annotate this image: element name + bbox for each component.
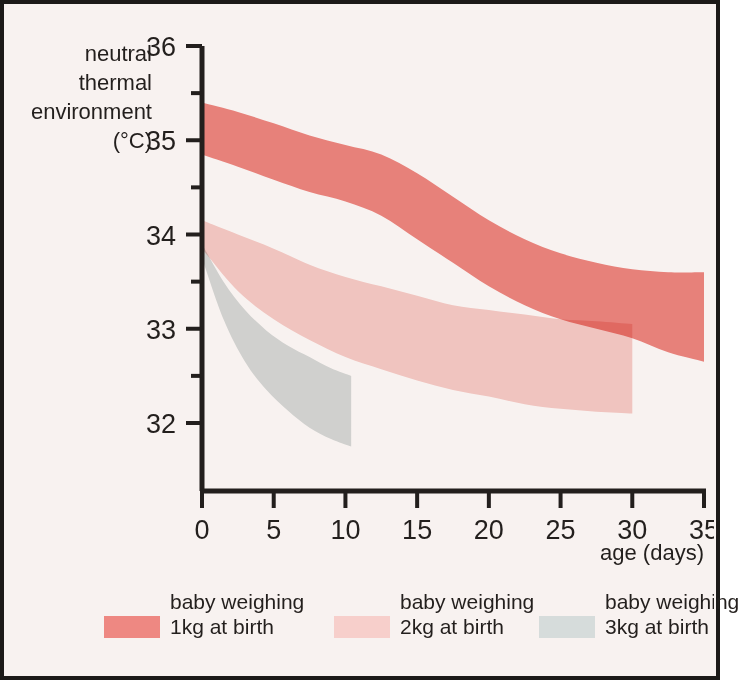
legend-label-3kg-line1: baby weighing <box>605 590 739 615</box>
x-tick-label: 20 <box>474 515 504 545</box>
data-bands <box>202 103 704 447</box>
legend-label-3kg: baby weighing 3kg at birth <box>605 590 739 640</box>
y-tick-label: 33 <box>146 315 176 345</box>
legend-label-2kg-line1: baby weighing <box>400 590 534 615</box>
legend-label-2kg-line2: 2kg at birth <box>400 615 534 640</box>
legend-label-3kg-line2: 3kg at birth <box>605 615 739 640</box>
x-tick-label: 25 <box>546 515 576 545</box>
legend-label-1kg-line2: 1kg at birth <box>170 615 304 640</box>
x-axis-label: age (days) <box>600 540 704 565</box>
x-tick-label: 0 <box>194 515 209 545</box>
x-tick-label: 5 <box>266 515 281 545</box>
x-tick-label: 10 <box>330 515 360 545</box>
y-axis-label-line-2: thermal <box>79 70 152 95</box>
legend-label-1kg: baby weighing 1kg at birth <box>170 590 304 640</box>
y-tick-label: 34 <box>146 221 176 251</box>
legend-label-2kg: baby weighing 2kg at birth <box>400 590 534 640</box>
legend-swatch-2kg <box>334 616 390 638</box>
y-tick-label: 32 <box>146 409 176 439</box>
y-tick-label: 35 <box>146 126 176 156</box>
legend-swatch-1kg <box>104 616 160 638</box>
legend-swatch-3kg <box>539 616 595 638</box>
legend-label-1kg-line1: baby weighing <box>170 590 304 615</box>
y-tick-label: 36 <box>146 32 176 62</box>
y-axis-label-line-1: neutral <box>85 41 152 66</box>
x-tick-label: 15 <box>402 515 432 545</box>
chart-canvas: neutral thermal environment (°C) 3233343… <box>4 4 724 680</box>
y-axis-label-line-3: environment <box>31 99 152 124</box>
